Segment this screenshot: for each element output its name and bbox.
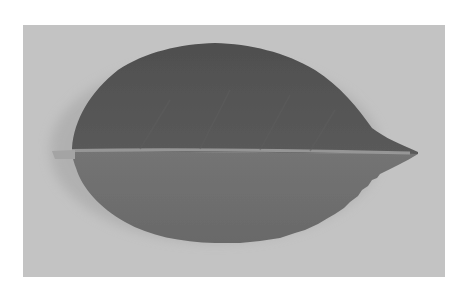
leaf-photo [23,25,445,277]
leaf-illustration [23,25,445,277]
leaf-petiole [52,150,75,159]
